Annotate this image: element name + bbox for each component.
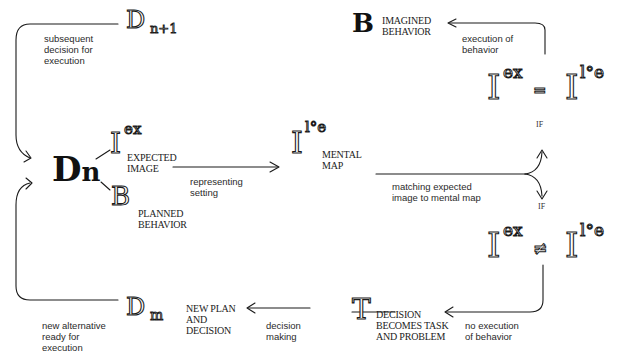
- superscript-ex-eq: ex: [503, 64, 523, 81]
- text-line: execution: [44, 55, 93, 66]
- text-line: EXPECTED: [127, 152, 177, 163]
- symbol-i-mental-map: I: [291, 128, 303, 158]
- symbol-d-m: D: [126, 295, 145, 319]
- text-line: image to mental map: [392, 192, 481, 203]
- label-new-plan: NEW PLAN AND DECISION: [186, 303, 236, 336]
- text-line: decision for: [44, 44, 93, 55]
- condition-if-not-equal: IF: [538, 202, 545, 211]
- text-line: AND: [186, 314, 236, 325]
- superscript-ex-neq: ex: [503, 222, 523, 239]
- text-line: behavior: [462, 44, 513, 55]
- symbol-b-imagined: B: [352, 10, 374, 36]
- label-task: DECISION BECOMES TASK AND PROBLEM: [376, 309, 448, 342]
- superscript-le-eq: l°e: [580, 64, 604, 81]
- label-imagined-behavior: IMAGINED BEHAVIOR: [382, 15, 431, 37]
- edge-no-execution: [446, 265, 543, 312]
- operator-equal: =: [533, 82, 546, 98]
- symbol-i-le-neq-right: I: [565, 228, 578, 262]
- symbol-i-le-eq-right: I: [565, 70, 578, 104]
- text-line: BECOMES TASK: [376, 320, 448, 331]
- subscript-m: m: [150, 308, 163, 322]
- label-subsequent: subsequent decision for execution: [44, 33, 93, 66]
- dn-subscript: n: [81, 157, 100, 187]
- text-line: BEHAVIOR: [382, 26, 431, 37]
- text-line: new alternative: [42, 320, 106, 331]
- superscript-le-neq: l°e: [580, 222, 604, 239]
- text-line: MAP: [322, 160, 362, 171]
- fork-down: [525, 174, 542, 196]
- text-line: representing: [190, 176, 243, 187]
- symbol-i-ex-neq-left: I: [487, 228, 500, 262]
- label-execution-of-behavior: execution of behavior: [462, 33, 513, 55]
- superscript-le-mental-map: l°e: [305, 120, 326, 135]
- text-line: making: [266, 331, 301, 342]
- text-line: NEW PLAN: [186, 303, 236, 314]
- superscript-ex-expected: ex: [124, 122, 141, 137]
- text-line: DECISION: [376, 309, 448, 320]
- label-matching: matching expected image to mental map: [392, 181, 481, 203]
- symbol-d-n-plus-1: D: [126, 8, 145, 32]
- symbol-t-task: T: [352, 296, 371, 324]
- edge-new-alternative: [16, 183, 118, 300]
- text-line: setting: [190, 187, 243, 198]
- symbol-b-planned: B: [111, 183, 130, 209]
- text-line: IMAGE: [127, 163, 177, 174]
- text-line: no execution: [465, 320, 519, 331]
- text-line: MENTAL: [322, 149, 362, 160]
- label-no-execution: no execution of behavior: [465, 320, 519, 342]
- text-line: subsequent: [44, 33, 93, 44]
- text-line: ready for: [42, 331, 106, 342]
- symbol-i-expected: I: [110, 130, 121, 158]
- label-planned-behavior: PLANNED BEHAVIOR: [138, 208, 187, 230]
- symbol-dn: Dn: [52, 152, 100, 186]
- condition-if-equal: IF: [536, 120, 543, 129]
- label-decision-making: decision making: [266, 320, 301, 342]
- text-line: execution of: [462, 33, 513, 44]
- label-mental-map: MENTAL MAP: [322, 149, 362, 171]
- label-expected-image: EXPECTED IMAGE: [127, 152, 177, 174]
- dn-to-planned-behavior: [101, 182, 110, 190]
- label-representing-setting: representing setting: [190, 176, 243, 198]
- text-line: PLANNED: [138, 208, 187, 219]
- text-line: decision: [266, 320, 301, 331]
- text-line: AND PROBLEM: [376, 331, 448, 342]
- text-line: IMAGINED: [382, 15, 431, 26]
- operator-not-equal: ≠: [533, 240, 547, 257]
- label-new-alternative: new alternative ready for execution: [42, 320, 106, 353]
- dn-letter: D: [52, 149, 81, 189]
- text-line: BEHAVIOR: [138, 219, 187, 230]
- text-line: of behavior: [465, 331, 519, 342]
- subscript-n-plus-1: n+1: [150, 22, 178, 35]
- symbol-i-ex-eq-left: I: [487, 70, 500, 104]
- fork-up: [525, 152, 542, 174]
- text-line: matching expected: [392, 181, 481, 192]
- text-line: DECISION: [186, 325, 236, 336]
- text-line: execution: [42, 342, 106, 353]
